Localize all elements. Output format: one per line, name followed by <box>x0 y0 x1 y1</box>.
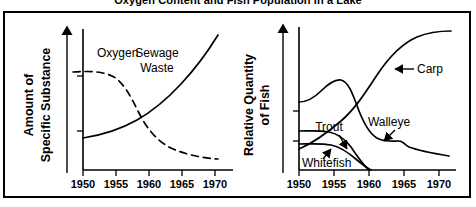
x-tick-label-right-1955: 1955 <box>322 178 346 190</box>
series-arrow-walleye <box>384 130 395 141</box>
x-tick-label-right-1950: 1950 <box>287 178 311 190</box>
x-tick-label-1960: 1960 <box>137 178 161 190</box>
figure-frame: 1950 1955 1960 1965 1970 Amount of Speci… <box>3 11 471 198</box>
series-label-whitefish: Whitefish <box>302 156 351 170</box>
chart-panel-oxygen-sewage: 1950 1955 1960 1965 1970 Amount of Speci… <box>5 13 241 196</box>
series-label-walleye: Walleye <box>368 115 411 129</box>
x-tick-label-1970: 1970 <box>203 178 227 190</box>
y-axis-title-left-line2: Specific Substance <box>39 48 53 163</box>
series-label-oxygen: Oxygen <box>97 46 138 60</box>
x-tick-label-1965: 1965 <box>170 178 194 190</box>
series-label-trout: Trout <box>315 120 343 134</box>
chart-panel-fish-population: 1950 1955 1960 1965 1970 Relative Quanti… <box>241 13 469 196</box>
x-tick-label-right-1960: 1960 <box>357 178 381 190</box>
x-tick-label-right-1970: 1970 <box>427 178 451 190</box>
figure-title: Oxygen Content and Fish Population in a … <box>0 0 476 6</box>
series-label-sewage-waste-line1: Sewage <box>135 46 179 60</box>
series-label-sewage-waste-line2: Waste <box>140 61 174 75</box>
x-tick-label-1955: 1955 <box>104 178 128 190</box>
x-tick-label-right-1965: 1965 <box>392 178 416 190</box>
figure-container: Oxygen Content and Fish Population in a … <box>0 0 476 207</box>
y-axis-title-right-line2: of Fish <box>258 85 272 126</box>
series-label-carp: Carp <box>417 62 443 76</box>
y-axis-title-right-line1: Relative Quantity <box>242 54 256 156</box>
y-axis-title-left-line1: Amount of <box>22 73 36 136</box>
x-tick-label-1950: 1950 <box>71 178 95 190</box>
